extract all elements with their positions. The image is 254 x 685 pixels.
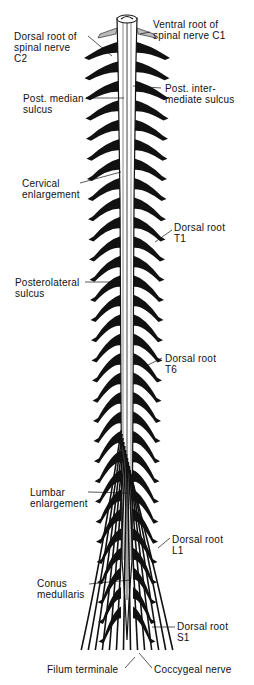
label-conus-medullaris: Conus medullaris (37, 578, 85, 600)
label-post-median-sulcus: Post. median sulcus (23, 93, 84, 115)
label-posterolateral-sulcus: Posterolateral sulcus (15, 277, 80, 299)
label-filum-terminale: Filum terminale (47, 664, 118, 675)
label-dorsal-root-s1: Dorsal root S1 (177, 621, 228, 643)
label-lumbar-enlargement: Lumbar enlargement (30, 487, 88, 509)
label-dorsal-root-l1: Dorsal root L1 (172, 534, 223, 556)
label-dorsal-root-t1: Dorsal root T1 (174, 222, 225, 244)
label-post-intermediate-sulcus: Post. inter- mediate sulcus (165, 83, 235, 105)
label-dorsal-root-c2: Dorsal root of spinal nerve C2 (14, 31, 77, 64)
label-dorsal-root-t6: Dorsal root T6 (165, 353, 216, 375)
label-coccygeal-nerve: Coccygeal nerve (154, 664, 231, 675)
label-ventral-root-c1: Ventral root of spinal nerve C1 (153, 19, 225, 41)
label-cervical-enlargement: Cervical enlargement (22, 178, 80, 200)
